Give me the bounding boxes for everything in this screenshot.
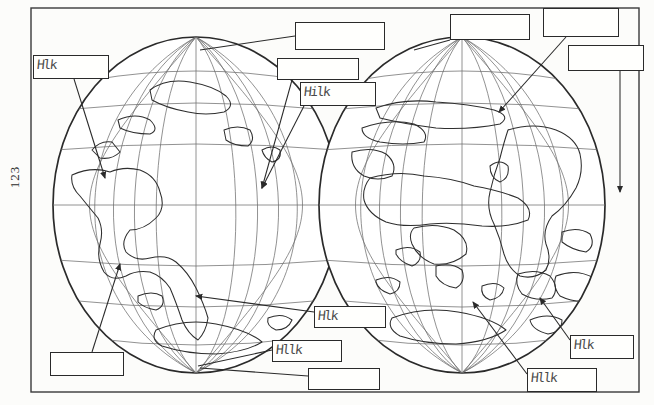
box-top-center-left[interactable]	[295, 22, 385, 50]
box-left-upper[interactable]: Hlk	[33, 55, 109, 79]
handwritten-mark: Hlk	[36, 58, 56, 72]
box-top-center-mid[interactable]	[277, 58, 359, 80]
box-bottom-left[interactable]	[50, 352, 124, 376]
box-top-right-c[interactable]	[568, 45, 644, 71]
box-top-right-b[interactable]	[543, 8, 619, 37]
handwritten-mark: Hlk	[317, 309, 337, 323]
box-bottom-center-c[interactable]	[308, 368, 380, 390]
handwritten-mark: Hilk	[303, 85, 330, 99]
box-bottom-center-a[interactable]: Hlk	[314, 306, 386, 328]
box-bottom-center-b[interactable]: Hllk	[272, 340, 342, 362]
handwritten-mark: Hllk	[275, 343, 302, 357]
box-top-right-a[interactable]	[450, 14, 530, 40]
scanned-page: 123	[0, 0, 654, 405]
box-bottom-right-b[interactable]: Hllk	[527, 368, 597, 392]
western-hemisphere-globe	[53, 37, 339, 373]
box-top-center-right[interactable]: Hilk	[300, 82, 376, 106]
box-bottom-right-a[interactable]: Hlk	[570, 335, 634, 359]
handwritten-mark: Hlk	[573, 338, 593, 352]
handwritten-mark: Hllk	[530, 371, 557, 385]
